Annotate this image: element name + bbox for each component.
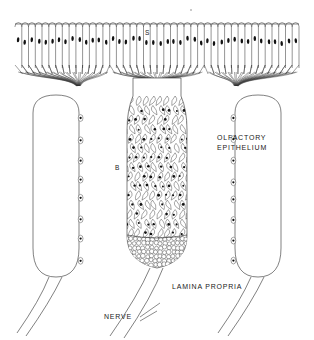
nerve-leader-line xyxy=(140,303,160,321)
stray-speck xyxy=(190,9,192,11)
epithelial-cell-row xyxy=(15,23,299,74)
label-basal-cell: B xyxy=(115,164,119,171)
label-supporting-cell: S xyxy=(145,29,149,36)
label-olfactory-epithelium-line1: OLFACTORY xyxy=(217,133,266,143)
nerve-fiber-pairs xyxy=(17,268,264,338)
gland-left xyxy=(33,95,79,277)
label-nerve: NERVE xyxy=(104,313,132,320)
gland-right xyxy=(235,95,281,277)
label-lamina-propria: LAMINA PROPRIA xyxy=(172,283,242,290)
diagram-canvas xyxy=(0,0,314,340)
label-olfactory-epithelium-line2: EPITHELIUM xyxy=(217,143,267,153)
olfactory-epithelium-diagram: S B OLFACTORY EPITHELIUM LAMINA PROPRIA … xyxy=(0,0,314,340)
